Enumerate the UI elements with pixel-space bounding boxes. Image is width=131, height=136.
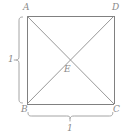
bottom-brace-path (28, 113, 113, 119)
vertex-label-a: A (23, 3, 30, 12)
vertex-label-b: B (21, 105, 28, 114)
left-measure-label: 1 (8, 55, 14, 64)
geometry-figure: A D B C E 1 1 (0, 0, 131, 136)
bottom-measure-label: 1 (67, 124, 73, 133)
vertex-label-c: C (113, 105, 120, 114)
left-measure-brace (14, 17, 22, 103)
center-point-label-e: E (64, 65, 71, 74)
diagonals (27, 16, 114, 104)
bottom-measure-brace (28, 113, 113, 122)
vertex-label-d: D (112, 3, 119, 12)
left-brace-path (17, 17, 23, 103)
